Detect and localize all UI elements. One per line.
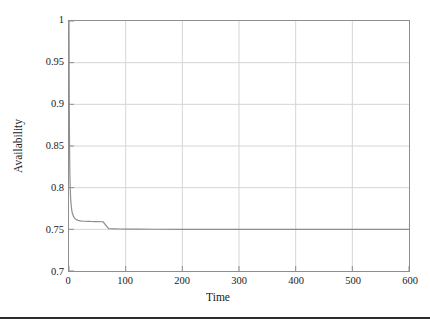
y-tick-label: 1 [59, 15, 64, 26]
x-tick-label: 500 [345, 276, 361, 287]
x-tick-label: 600 [402, 276, 418, 287]
plot-area [68, 20, 410, 272]
y-tick-label: 0.85 [46, 141, 64, 152]
x-axis-title: Time [0, 291, 430, 303]
x-axis-title-text: Time [206, 291, 230, 303]
x-tick-label: 0 [65, 276, 70, 287]
plot-svg [69, 21, 409, 271]
y-tick-label: 0.7 [51, 267, 64, 278]
x-tick-label: 200 [174, 276, 190, 287]
y-tick-label: 0.75 [46, 225, 64, 236]
y-tick-label: 0.9 [51, 99, 64, 110]
x-tick-label: 100 [117, 276, 133, 287]
y-tick-label: 0.95 [46, 57, 64, 68]
x-tick-label: 300 [231, 276, 247, 287]
chart-figure: 0.70.750.80.850.90.951 01002003004005006… [0, 0, 430, 326]
y-axis-title: Availability [12, 119, 24, 173]
y-tick-label: 0.8 [51, 183, 64, 194]
x-tick-label: 400 [288, 276, 304, 287]
bottom-rule [0, 317, 430, 319]
